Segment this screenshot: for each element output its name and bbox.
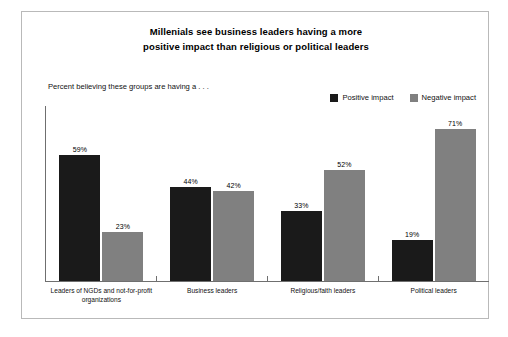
bar-wrap-negative: 42%	[213, 106, 254, 281]
chart-frame: Millenials see business leaders having a…	[21, 11, 489, 319]
category-label-business-leaders: Business leaders	[157, 287, 268, 304]
bar-positive[interactable]	[281, 211, 322, 281]
bar-group-political-leaders: 19% 71%	[378, 106, 489, 281]
bar-wrap-negative: 23%	[102, 106, 143, 281]
bar-value-label: 33%	[294, 201, 308, 210]
legend-swatch-negative-icon	[410, 94, 418, 102]
bar-groups: 59% 23% 44% 42%	[46, 106, 489, 281]
chart-legend: Positive impact Negative impact	[330, 93, 476, 102]
legend-swatch-positive-icon	[330, 94, 338, 102]
bar-negative[interactable]	[324, 170, 365, 281]
category-label-political-leaders: Political leaders	[378, 287, 489, 304]
bar-negative[interactable]	[102, 232, 143, 281]
bar-wrap-positive: 33%	[281, 106, 322, 281]
category-label-religious-leaders: Religious/faith leaders	[268, 287, 379, 304]
bar-group-ngo-leaders: 59% 23%	[46, 106, 157, 281]
bar-positive[interactable]	[59, 155, 100, 281]
bar-positive[interactable]	[392, 240, 433, 281]
bar-value-label: 71%	[448, 119, 462, 128]
bar-value-label: 44%	[184, 177, 198, 186]
bar-group-religious-leaders: 33% 52%	[268, 106, 379, 281]
legend-item-negative-impact[interactable]: Negative impact	[410, 93, 476, 102]
bar-value-label: 52%	[337, 160, 351, 169]
bar-positive[interactable]	[170, 187, 211, 281]
x-axis-line	[45, 281, 489, 282]
category-axis-labels: Leaders of NGDs and not-for-profit organ…	[46, 287, 489, 304]
bar-value-label: 23%	[116, 222, 130, 231]
legend-label-positive: Positive impact	[342, 93, 393, 102]
plot-area: 59% 23% 44% 42%	[45, 106, 489, 282]
bar-value-label: 19%	[405, 230, 419, 239]
category-label-line-2: organizations	[82, 296, 121, 303]
bar-wrap-negative: 71%	[435, 106, 476, 281]
bar-wrap-negative: 52%	[324, 106, 365, 281]
category-label-line-1: Political leaders	[411, 287, 457, 294]
bar-value-label: 59%	[73, 145, 87, 154]
bar-negative[interactable]	[435, 129, 476, 281]
legend-item-positive-impact[interactable]: Positive impact	[330, 93, 393, 102]
legend-label-negative: Negative impact	[422, 93, 476, 102]
category-label-line-1: Leaders of NGDs and not-for-profit	[51, 287, 153, 294]
bar-wrap-positive: 19%	[392, 106, 433, 281]
bar-group-business-leaders: 44% 42%	[157, 106, 268, 281]
chart-title-line-2: positive impact than religious or politi…	[22, 39, 490, 54]
category-label-line-1: Business leaders	[187, 287, 237, 294]
chart-title: Millenials see business leaders having a…	[22, 24, 490, 54]
bar-wrap-positive: 44%	[170, 106, 211, 281]
bar-value-label: 42%	[227, 181, 241, 190]
category-label-ngo-leaders: Leaders of NGDs and not-for-profit organ…	[46, 287, 157, 304]
chart-title-line-1: Millenials see business leaders having a…	[22, 24, 490, 39]
bar-wrap-positive: 59%	[59, 106, 100, 281]
category-label-line-1: Religious/faith leaders	[290, 287, 355, 294]
bar-negative[interactable]	[213, 191, 254, 281]
chart-subtitle: Percent believing these groups are havin…	[48, 82, 209, 91]
